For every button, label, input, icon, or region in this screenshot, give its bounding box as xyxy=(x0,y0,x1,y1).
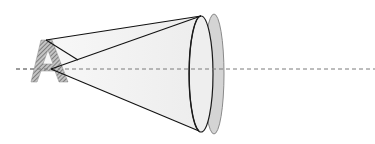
diagram-canvas xyxy=(0,0,375,144)
light-cone xyxy=(39,16,213,131)
optics-diagram: A xyxy=(0,0,375,144)
